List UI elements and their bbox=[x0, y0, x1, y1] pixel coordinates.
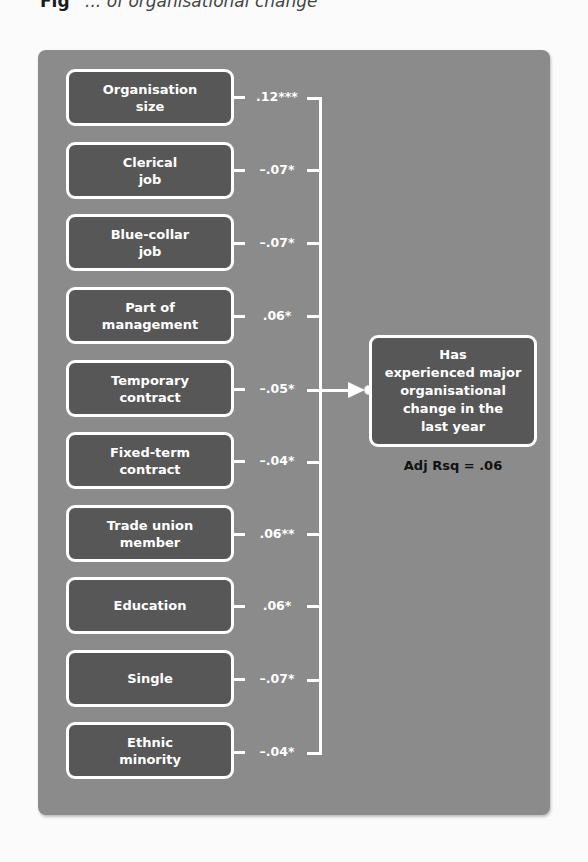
connector-stub bbox=[234, 533, 245, 536]
figure-label: Fig bbox=[40, 0, 70, 11]
predictor-box-clerical-job: Clerical job bbox=[66, 142, 234, 199]
outcome-box: Has experienced major organisational cha… bbox=[369, 335, 537, 447]
connector-stub bbox=[234, 751, 245, 754]
bracket-line bbox=[319, 97, 322, 754]
predictor-box-trade-union-member: Trade union member bbox=[66, 505, 234, 562]
coefficient-label: –.07* bbox=[248, 670, 306, 688]
coefficient-label: –.07* bbox=[248, 234, 306, 252]
coefficient-label: .06** bbox=[248, 525, 306, 543]
connector-stub bbox=[234, 605, 245, 608]
connector-stub bbox=[234, 678, 245, 681]
adjusted-r-squared: Adj Rsq = .06 bbox=[369, 458, 537, 473]
coefficient-label: .06* bbox=[248, 597, 306, 615]
figure-caption: Fig ... of organisational change bbox=[40, 0, 560, 11]
coefficient-label: .06* bbox=[248, 307, 306, 325]
predictor-box-temporary-contract: Temporary contract bbox=[66, 360, 234, 417]
predictor-box-ethnic-minority: Ethnic minority bbox=[66, 722, 234, 779]
predictor-box-education: Education bbox=[66, 577, 234, 634]
coefficient-label: –.04* bbox=[248, 452, 306, 470]
coefficient-label: –.04* bbox=[248, 743, 306, 761]
connector-stub bbox=[234, 315, 245, 318]
predictor-box-part-of-management: Part of management bbox=[66, 287, 234, 344]
connector-stub bbox=[234, 96, 245, 99]
arrow-right-icon bbox=[348, 382, 365, 398]
coefficient-label: .12*** bbox=[248, 88, 306, 106]
predictor-box-blue-collar-job: Blue-collar job bbox=[66, 214, 234, 271]
predictor-box-organisation-size: Organisation size bbox=[66, 69, 234, 126]
connector-stub bbox=[234, 242, 245, 245]
connector-stub bbox=[234, 460, 245, 463]
connector-stub bbox=[234, 388, 245, 391]
figure-title: ... of organisational change bbox=[85, 0, 317, 11]
predictor-box-single: Single bbox=[66, 650, 234, 707]
coefficient-label: –.05* bbox=[248, 380, 306, 398]
connector-stub bbox=[234, 169, 245, 172]
predictor-box-fixed-term-contract: Fixed-term contract bbox=[66, 432, 234, 489]
coefficient-label: –.07* bbox=[248, 161, 306, 179]
